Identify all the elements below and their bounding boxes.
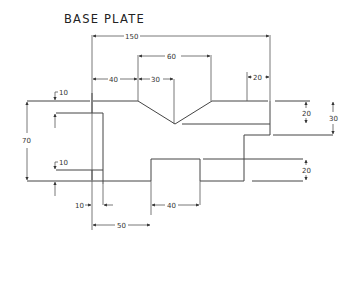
dim-150: 150 — [125, 33, 138, 41]
dim-70: 70 — [22, 137, 31, 145]
dim-60: 60 — [167, 53, 176, 61]
dim-10-lower: 10 — [59, 159, 68, 167]
dimension-lines — [27, 36, 333, 225]
part-outline — [27, 93, 333, 184]
dim-30-right: 30 — [329, 115, 338, 123]
dimension-labels: 150 60 40 30 20 10 70 10 20 30 20 10 40 … — [22, 33, 338, 230]
dim-20-top: 20 — [253, 74, 262, 82]
dim-30: 30 — [151, 76, 160, 84]
dim-40-top: 40 — [109, 76, 118, 84]
base-plate-drawing: 150 60 40 30 20 10 70 10 20 30 20 10 40 … — [0, 0, 351, 282]
dim-40-bottom: 40 — [167, 202, 176, 210]
dim-10-bottom: 10 — [75, 202, 84, 210]
dim-50: 50 — [117, 222, 126, 230]
dim-20-right-upper: 20 — [302, 110, 311, 118]
extension-lines — [92, 35, 270, 230]
dim-20-right-lower: 20 — [302, 167, 311, 175]
dim-10-top: 10 — [59, 89, 68, 97]
